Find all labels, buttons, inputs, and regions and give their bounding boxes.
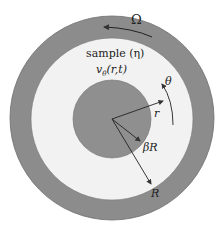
rheometer-diagram: Ω sample (η) vθ(r,t) θ r βR R bbox=[0, 0, 221, 230]
r-label: r bbox=[154, 107, 160, 120]
theta-label: θ bbox=[165, 75, 172, 88]
velocity-label: vθ(r,t) bbox=[96, 63, 127, 78]
omega-label: Ω bbox=[131, 12, 142, 27]
outer-radius-label: R bbox=[150, 187, 159, 200]
inner-radius-label: βR bbox=[142, 141, 158, 154]
sample-label: sample (η) bbox=[86, 47, 144, 60]
